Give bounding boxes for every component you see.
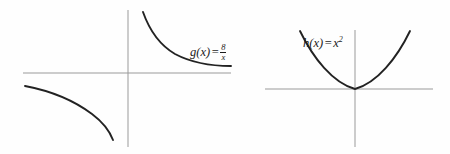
h-label-function: h(x) (303, 36, 323, 50)
g-label-fraction: 8x (220, 43, 226, 62)
g-lower-left-branch (25, 86, 113, 140)
g-panel-group (23, 10, 231, 147)
h-panel-group (265, 30, 433, 147)
g-label-numerator: 8 (220, 43, 226, 52)
h-label-equals: = (323, 36, 333, 50)
h-function-label: h(x)=x2 (303, 36, 343, 50)
graphs-canvas (0, 0, 450, 154)
g-label-denominator: x (220, 52, 226, 62)
function-graphs-figure: g(x)=8x h(x)=x2 (0, 0, 450, 154)
g-label-function: g(x) (190, 45, 210, 59)
g-label-equals: = (210, 45, 220, 59)
h-label-exponent: 2 (339, 35, 343, 44)
g-function-label: g(x)=8x (190, 43, 226, 62)
